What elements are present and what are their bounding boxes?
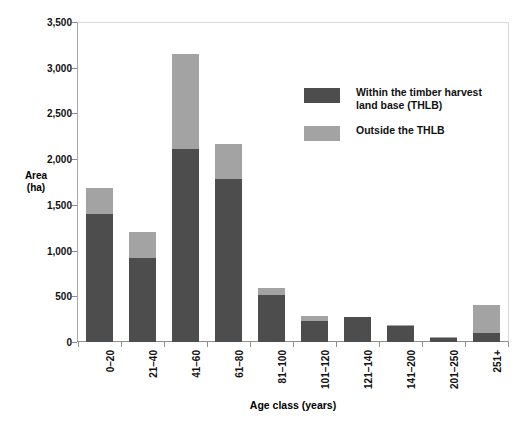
bar-stack[interactable] — [86, 22, 113, 342]
bar-stack[interactable] — [430, 22, 457, 342]
figure-caption — [2, 414, 522, 423]
x-axis-tick-label-text: 0–20 — [105, 350, 116, 372]
y-axis-tick-mark — [72, 68, 77, 69]
x-axis-tick-label: 81–100 — [265, 350, 279, 398]
y-axis-tick-label: 2,500 — [28, 108, 72, 119]
x-axis-tick-label-text: 141–200 — [406, 350, 417, 389]
legend-item-within-thlb[interactable]: Within the timber harvest land base (THL… — [304, 86, 514, 110]
x-axis-tick-label-text: 201–250 — [449, 350, 460, 389]
x-axis-tick-label-text: 101–120 — [320, 350, 331, 389]
bar-segment-outside-thlb — [86, 188, 113, 215]
legend-swatch-dark-icon — [304, 88, 340, 103]
bar-segment-within-thlb — [473, 333, 500, 342]
bar-segment-outside-thlb — [473, 305, 500, 332]
y-axis-tick-mark — [72, 296, 77, 297]
x-axis-tick-label: 61–80 — [222, 350, 236, 398]
x-axis-tick-label: 121–140 — [351, 350, 365, 398]
x-axis-tick-mark — [508, 342, 509, 347]
bar-segment-outside-thlb — [129, 232, 156, 258]
x-axis-tick-mark — [250, 342, 251, 347]
chart-figure: Area (ha) 05001,0001,5002,0002,5003,0003… — [0, 0, 526, 424]
bar-segment-within-thlb — [215, 179, 242, 342]
x-axis-tick-label: 201–250 — [437, 350, 451, 398]
bar-segment-outside-thlb — [301, 316, 328, 321]
bar-segment-within-thlb — [172, 149, 199, 342]
x-axis-tick-label-text: 21–40 — [148, 350, 159, 378]
bar-segment-outside-thlb — [172, 54, 199, 149]
bar-segment-outside-thlb — [215, 144, 242, 180]
y-axis-tick-mark — [72, 342, 77, 343]
bar — [387, 325, 414, 342]
bar — [301, 316, 328, 342]
x-axis-tick-label: 21–40 — [136, 350, 150, 398]
y-axis-tick-label: 3,000 — [28, 62, 72, 73]
y-axis-tick-mark — [72, 22, 77, 23]
y-axis-tick-mark — [72, 205, 77, 206]
bar-segment-outside-thlb — [258, 288, 285, 295]
bar — [86, 188, 113, 343]
x-axis-tick-mark — [293, 342, 294, 347]
x-axis-tick-label: 41–60 — [179, 350, 193, 398]
y-axis-tick-mark — [72, 159, 77, 160]
bar — [215, 144, 242, 342]
bar — [258, 288, 285, 342]
chart-legend: Within the timber harvest land base (THL… — [304, 86, 514, 162]
y-axis-tick-mark — [72, 113, 77, 114]
x-axis-tick-mark — [207, 342, 208, 347]
x-axis-tick-label: 0–20 — [93, 350, 107, 398]
legend-item-outside-thlb[interactable]: Outside the THLB — [304, 124, 514, 148]
bar-stack[interactable] — [301, 22, 328, 342]
bar-stack[interactable] — [258, 22, 285, 342]
x-axis-tick-label-text: 121–140 — [363, 350, 374, 389]
legend-label-outside-thlb: Outside the THLB — [356, 124, 506, 137]
bar-segment-within-thlb — [258, 295, 285, 342]
bar-segment-within-thlb — [387, 326, 414, 342]
y-axis-tick-label: 3,500 — [28, 17, 72, 28]
bar — [430, 337, 457, 342]
y-axis-tick-label: 1,500 — [28, 199, 72, 210]
legend-label-within-thlb: Within the timber harvest land base (THL… — [356, 86, 506, 112]
x-axis-tick-mark — [164, 342, 165, 347]
y-axis-tick-label: 2,000 — [28, 154, 72, 165]
x-axis-tick-label: 251+ — [480, 350, 494, 398]
x-axis-tick-mark — [465, 342, 466, 347]
bar-segment-within-thlb — [129, 258, 156, 342]
y-axis-tick-mark — [72, 251, 77, 252]
bar-stack[interactable] — [172, 22, 199, 342]
bar — [344, 317, 371, 342]
x-axis-tick-label-text: 251+ — [492, 350, 503, 373]
x-axis-tick-label-text: 41–60 — [191, 350, 202, 378]
x-axis-tick-label: 101–120 — [308, 350, 322, 398]
x-axis-tick-mark — [78, 342, 79, 347]
bar-segment-within-thlb — [301, 321, 328, 342]
bar — [172, 54, 199, 342]
bar-stack[interactable] — [387, 22, 414, 342]
bar-segment-within-thlb — [344, 317, 371, 342]
y-axis-tick-label: 0 — [28, 337, 72, 348]
x-axis-tick-mark — [121, 342, 122, 347]
bar-segment-outside-thlb — [387, 325, 414, 327]
bar — [129, 232, 156, 342]
y-axis-tick-label: 1,000 — [28, 245, 72, 256]
x-axis-tick-label-text: 81–100 — [277, 350, 288, 383]
legend-label-within-thlb-line1: Within the timber harvest — [356, 86, 482, 98]
bar — [473, 305, 500, 342]
x-axis-tick-label: 141–200 — [394, 350, 408, 398]
y-axis-tick-label: 500 — [28, 291, 72, 302]
x-axis-tick-mark — [379, 342, 380, 347]
x-axis-tick-mark — [422, 342, 423, 347]
legend-label-within-thlb-line2: land base (THLB) — [356, 99, 442, 111]
x-axis-title: Age class (years) — [78, 399, 508, 411]
x-axis-tick-label-text: 61–80 — [234, 350, 245, 378]
plot-area — [78, 22, 508, 342]
bar-stack[interactable] — [129, 22, 156, 342]
y-axis-tick-labels: 05001,0001,5002,0002,5003,0003,500 — [20, 0, 72, 424]
bar-stack[interactable] — [344, 22, 371, 342]
bar-segment-within-thlb — [86, 214, 113, 342]
bar-stack[interactable] — [473, 22, 500, 342]
x-axis-tick-mark — [336, 342, 337, 347]
legend-swatch-light-icon — [304, 126, 340, 141]
bar-stack[interactable] — [215, 22, 242, 342]
bar-segment-outside-thlb — [430, 337, 457, 338]
bar-segment-within-thlb — [430, 337, 457, 342]
